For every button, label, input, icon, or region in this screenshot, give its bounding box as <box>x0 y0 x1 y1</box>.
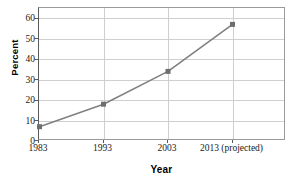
y-tick-label: 40 <box>1 55 35 65</box>
series-polyline <box>40 24 233 126</box>
y-tick-label: 30 <box>1 76 35 86</box>
x-tick-label: 2003 <box>158 144 177 154</box>
x-tick-label: 1993 <box>93 144 112 154</box>
data-point-marker <box>101 102 106 107</box>
data-series-line <box>39 8 286 141</box>
data-point-marker <box>230 22 235 27</box>
plot-area <box>38 7 285 140</box>
data-point-marker <box>37 124 42 129</box>
y-tick-label: 50 <box>1 35 35 45</box>
chart-screenshot: Percent 60 50 40 30 20 10 0 <box>0 0 299 184</box>
y-tick-label: 20 <box>1 96 35 106</box>
y-tick-label: 10 <box>1 117 35 127</box>
data-point-marker <box>166 69 171 74</box>
y-axis-tick-labels: 60 50 40 30 20 10 0 <box>0 0 35 184</box>
y-tick-label: 60 <box>1 14 35 24</box>
x-tick-label: 1983 <box>29 144 48 154</box>
x-axis-title: Year <box>38 164 285 175</box>
x-tick-label: 2013 (projected) <box>200 144 263 154</box>
